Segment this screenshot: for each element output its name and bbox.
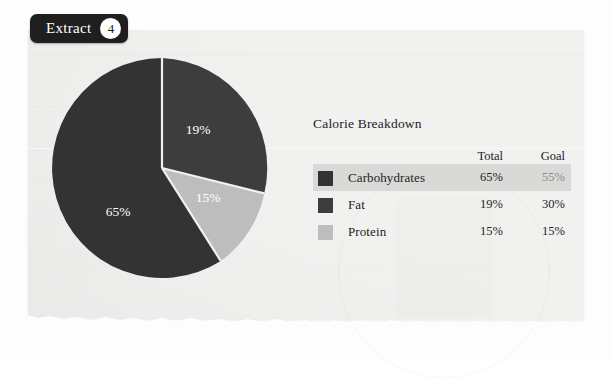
- legend-swatch-cell: [313, 191, 348, 218]
- legend-color-swatch-protein: [318, 225, 333, 240]
- pie-label-carbohydrates: 65%: [106, 204, 131, 219]
- legend-label-protein: Protein: [348, 218, 441, 245]
- legend-table: Total Goal Carbohydrates 65% 55%: [313, 149, 571, 245]
- pie-label-protein: 15%: [196, 190, 221, 205]
- legend-header-total: Total: [441, 149, 503, 164]
- legend-panel: Calorie Breakdown Total Goal Carbohydrat…: [313, 116, 571, 245]
- legend-total-fat: 19%: [441, 191, 503, 218]
- paper-card: 19% 15% 65% Calorie Breakdown Total Goal: [28, 30, 584, 320]
- legend-goal-carbohydrates: 55%: [503, 164, 571, 191]
- extract-badge-number: 4: [100, 18, 121, 39]
- legend-swatch-cell: [313, 164, 348, 191]
- extract-badge-label: Extract: [46, 20, 91, 37]
- pie-label-fat: 19%: [186, 122, 211, 137]
- legend-label-fat: Fat: [348, 191, 441, 218]
- paper-torn-edge: [28, 315, 584, 327]
- legend-header-row: Total Goal: [313, 149, 571, 164]
- pie-chart: 19% 15% 65%: [46, 52, 278, 284]
- legend-header-goal: Goal: [503, 149, 571, 164]
- legend-row-fat[interactable]: Fat 19% 30%: [313, 191, 571, 218]
- legend-color-swatch-fat: [318, 198, 333, 213]
- legend-label-carbohydrates: Carbohydrates: [348, 164, 441, 191]
- legend-row-carbohydrates[interactable]: Carbohydrates 65% 55%: [313, 164, 571, 191]
- legend-goal-fat: 30%: [503, 191, 571, 218]
- legend-total-protein: 15%: [441, 218, 503, 245]
- pie-chart-figure: 19% 15% 65%: [46, 52, 278, 284]
- legend-title: Calorie Breakdown: [313, 116, 571, 132]
- legend-swatch-cell: [313, 218, 348, 245]
- legend-goal-protein: 15%: [503, 218, 571, 245]
- extract-badge: Extract 4: [30, 14, 128, 43]
- legend-color-swatch-carbohydrates: [318, 171, 333, 186]
- legend-total-carbohydrates: 65%: [441, 164, 503, 191]
- legend-row-protein[interactable]: Protein 15% 15%: [313, 218, 571, 245]
- legend-header-spacer: [313, 149, 441, 164]
